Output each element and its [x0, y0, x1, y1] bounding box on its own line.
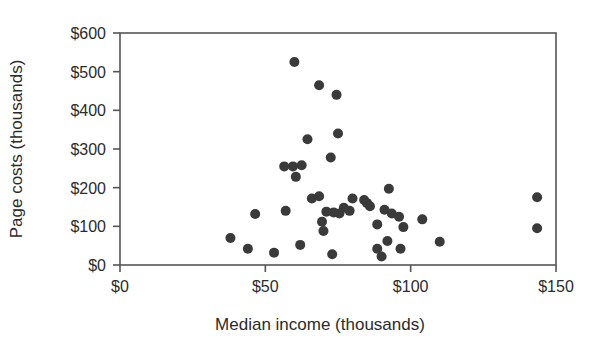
scatter-point — [225, 233, 235, 243]
x-tick-label: $100 — [393, 278, 429, 295]
scatter-point — [269, 248, 279, 258]
chart-canvas: $0$50$100$150 $0$100$200$300$400$500$600… — [0, 0, 598, 344]
scatter-point — [321, 207, 331, 217]
scatter-point — [365, 201, 375, 211]
scatter-point — [384, 184, 394, 194]
scatter-point — [395, 244, 405, 254]
y-tick-label: $200 — [70, 180, 106, 197]
scatter-point — [532, 223, 542, 233]
scatter-point — [297, 160, 307, 170]
scatter-point — [327, 249, 337, 259]
scatter-point — [288, 161, 298, 171]
y-tick-label: $400 — [70, 102, 106, 119]
y-axis-title: Page costs (thousands) — [7, 60, 26, 239]
scatter-point — [394, 212, 404, 222]
scatter-point — [377, 251, 387, 261]
scatter-point — [532, 192, 542, 202]
scatter-point — [345, 206, 355, 216]
x-tick-label: $50 — [252, 278, 279, 295]
scatter-point — [291, 172, 301, 182]
scatter-point — [382, 236, 392, 246]
scatter-chart-figure: $0$50$100$150 $0$100$200$300$400$500$600… — [0, 0, 598, 344]
scatter-point — [398, 222, 408, 232]
scatter-point — [243, 244, 253, 254]
scatter-point — [279, 161, 289, 171]
y-tick-label: $600 — [70, 25, 106, 42]
scatter-point — [435, 237, 445, 247]
scatter-point — [250, 209, 260, 219]
scatter-point — [281, 206, 291, 216]
y-tick-label: $300 — [70, 141, 106, 158]
scatter-point — [318, 226, 328, 236]
scatter-point — [317, 217, 327, 227]
scatter-point — [314, 191, 324, 201]
y-tick-label: $0 — [88, 257, 106, 274]
y-tick-label: $100 — [70, 218, 106, 235]
scatter-point — [348, 193, 358, 203]
x-axis-title: Median income (thousands) — [215, 315, 425, 334]
scatter-point — [333, 129, 343, 139]
scatter-point — [314, 80, 324, 90]
scatter-point — [295, 240, 305, 250]
scatter-point — [372, 219, 382, 229]
scatter-point — [302, 134, 312, 144]
chart-background — [0, 0, 598, 344]
scatter-point — [289, 57, 299, 67]
scatter-point — [326, 153, 336, 163]
x-tick-label: $150 — [538, 278, 574, 295]
scatter-point — [332, 90, 342, 100]
scatter-point — [417, 214, 427, 224]
y-tick-label: $500 — [70, 64, 106, 81]
x-tick-label: $0 — [111, 278, 129, 295]
